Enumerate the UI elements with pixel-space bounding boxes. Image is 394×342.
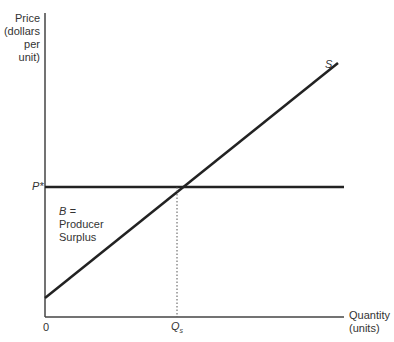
area-label: B = Producer Surplus: [59, 205, 104, 244]
y-axis-label-line: Price: [0, 12, 40, 25]
area-label-line: Producer: [59, 218, 104, 231]
area-label-line: Surplus: [59, 231, 104, 244]
diagram-canvas: [0, 0, 394, 342]
x-axis-label: Quantity (units): [349, 309, 390, 335]
quantity-label-main: Q: [171, 320, 180, 332]
y-axis-label: Price (dollars per unit): [0, 12, 40, 64]
x-axis-label-line: Quantity: [349, 309, 390, 322]
supply-curve: [45, 63, 338, 298]
y-axis-label-line: per unit): [0, 38, 40, 64]
origin-label: 0: [43, 321, 49, 334]
area-label-line: B =: [59, 205, 104, 218]
x-axis-label-line: (units): [349, 322, 390, 335]
quantity-label-subscript: s: [180, 327, 184, 334]
y-axis-label-line: (dollars: [0, 25, 40, 38]
supply-label: S: [325, 58, 332, 71]
quantity-label: Qs: [171, 320, 183, 337]
price-label: P*: [32, 180, 44, 193]
